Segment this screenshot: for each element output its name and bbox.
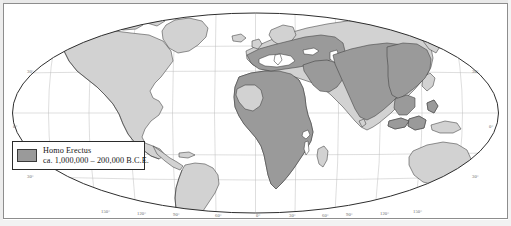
lat-label-right-30s: 30° — [472, 174, 479, 179]
lon-label-30e: 30° — [289, 213, 296, 218]
lat-label-right-0: 0° — [489, 124, 493, 129]
legend-title: Homo Erectus — [43, 146, 149, 155]
land-new-zealand — [480, 169, 491, 183]
lon-label-60w: 60° — [215, 213, 222, 218]
legend-text-block: Homo Erectus ca. 1,000,000 – 200,000 B.C… — [43, 146, 149, 164]
lat-label-right-30n: 30° — [472, 69, 479, 74]
lon-label-150e: 150° — [413, 209, 422, 214]
lat-label-left-30s: 30° — [27, 174, 34, 179]
lat-label-left-30n: 30° — [27, 69, 34, 74]
lon-label-120w: 120° — [137, 211, 146, 216]
map-legend: Homo Erectus ca. 1,000,000 – 200,000 B.C… — [12, 141, 145, 170]
lon-label-90w: 90° — [173, 212, 180, 217]
lon-label-90e: 90° — [346, 212, 353, 217]
world-map-svg — [3, 3, 508, 219]
lon-label-0: 0° — [256, 213, 260, 218]
lon-label-150w: 150° — [101, 209, 110, 214]
legend-swatch-homo-erectus — [17, 149, 37, 162]
page-edge-bottom — [0, 220, 511, 226]
map-figure: 30° 0° 30° 30° 0° 30° 150° 120° 90° 60° … — [0, 0, 511, 226]
land-arctic-island-3 — [90, 22, 107, 31]
lon-label-120e: 120° — [380, 211, 389, 216]
lon-label-60e: 60° — [322, 213, 329, 218]
lat-label-left-0: 0° — [13, 124, 17, 129]
legend-subtitle: ca. 1,000,000 – 200,000 B.C.E. — [43, 156, 149, 165]
